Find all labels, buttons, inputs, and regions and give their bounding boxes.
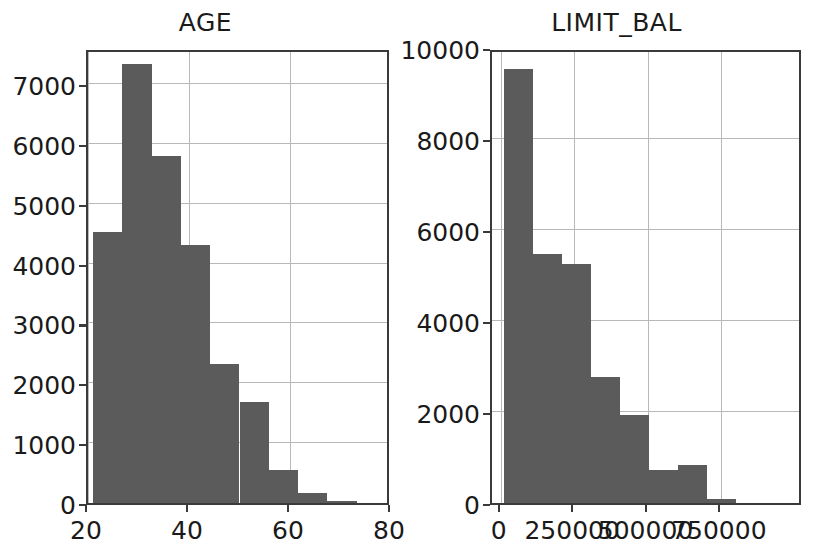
x-axis-tick-label: 20	[70, 516, 102, 545]
y-axis-tick-mark	[79, 145, 86, 147]
x-axis-tick-mark	[498, 505, 500, 512]
y-axis-tick-mark	[79, 85, 86, 87]
y-axis-tick-label: 4000	[416, 309, 480, 338]
histogram-bar	[240, 402, 269, 503]
y-axis-tick-mark	[79, 444, 86, 446]
histogram-bar	[122, 64, 151, 503]
y-gridline	[492, 229, 799, 230]
y-axis-tick-label: 1000	[12, 431, 76, 460]
x-axis-tick-mark	[645, 505, 647, 512]
histogram-bar	[298, 493, 327, 503]
histogram-bar	[591, 377, 620, 503]
y-axis-tick-label: 7000	[12, 71, 76, 100]
histogram-figure: AGE 010002000300040005000600070002040608…	[0, 0, 822, 559]
y-axis-tick-label: 0	[464, 491, 480, 520]
y-axis-tick-mark	[79, 265, 86, 267]
x-axis-tick-label: 0	[491, 516, 507, 545]
y-axis-tick-mark	[483, 504, 490, 506]
age-chart-title: AGE	[0, 8, 411, 37]
y-axis-tick-mark	[483, 413, 490, 415]
x-axis-tick-mark	[186, 505, 188, 512]
y-axis-tick-mark	[79, 384, 86, 386]
limitbal-chart-title: LIMIT_BAL	[411, 8, 822, 37]
x-gridline	[88, 52, 89, 503]
age-panel: AGE 010002000300040005000600070002040608…	[0, 0, 411, 559]
y-axis-tick-label: 4000	[12, 251, 76, 280]
y-gridline	[492, 138, 799, 139]
histogram-bar	[562, 264, 591, 503]
x-axis-tick-label: 40	[171, 516, 203, 545]
y-axis-tick-mark	[483, 49, 490, 51]
x-axis-tick-label: 750000	[671, 516, 766, 545]
y-axis-tick-label: 5000	[12, 191, 76, 220]
y-axis-tick-label: 8000	[416, 127, 480, 156]
age-plot-area	[86, 50, 389, 505]
histogram-bar	[620, 415, 649, 503]
y-axis-tick-mark	[483, 231, 490, 233]
histogram-bar	[707, 499, 736, 503]
y-axis-tick-label: 10000	[400, 36, 480, 65]
y-axis-tick-mark	[79, 205, 86, 207]
x-axis-tick-mark	[718, 505, 720, 512]
x-axis-tick-mark	[388, 505, 390, 512]
x-axis-tick-label: 80	[373, 516, 405, 545]
y-axis-tick-mark	[483, 322, 490, 324]
histogram-bar	[93, 232, 122, 503]
histogram-bar	[649, 470, 678, 503]
y-axis-tick-label: 3000	[12, 311, 76, 340]
histogram-bar	[504, 69, 533, 503]
y-axis-tick-mark	[79, 324, 86, 326]
y-axis-tick-label: 2000	[416, 400, 480, 429]
x-axis-tick-mark	[85, 505, 87, 512]
histogram-bar	[533, 254, 562, 503]
x-gridline	[501, 52, 502, 503]
x-axis-tick-label: 60	[272, 516, 304, 545]
x-gridline	[721, 52, 722, 503]
y-axis-tick-label: 2000	[12, 371, 76, 400]
histogram-bar	[210, 364, 239, 503]
x-axis-tick-mark	[287, 505, 289, 512]
y-axis-tick-mark	[483, 140, 490, 142]
limitbal-panel: LIMIT_BAL 020004000600080001000002500005…	[411, 0, 822, 559]
y-axis-tick-label: 6000	[416, 218, 480, 247]
x-gridline	[290, 52, 291, 503]
histogram-bar	[152, 156, 181, 503]
histogram-bar	[678, 465, 707, 503]
y-axis-tick-label: 6000	[12, 131, 76, 160]
histogram-bar	[181, 245, 210, 503]
x-axis-tick-mark	[571, 505, 573, 512]
histogram-bar	[269, 470, 298, 503]
limitbal-plot-area	[490, 50, 801, 505]
histogram-bar	[327, 501, 356, 503]
